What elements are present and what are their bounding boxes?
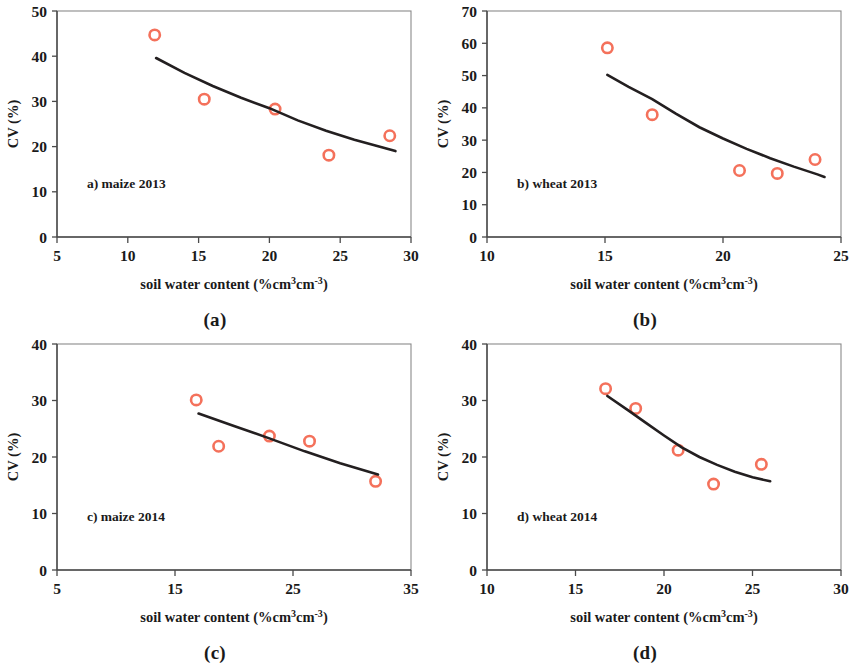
x-axis-title: soil water content (%cm3cm-3) bbox=[570, 608, 758, 627]
data-point-marker bbox=[647, 109, 657, 119]
y-tick-label: 0 bbox=[39, 229, 47, 246]
panel-c: 0102030405152535CV (%)soil water content… bbox=[0, 333, 430, 666]
panel-c-caption: (c) bbox=[0, 642, 430, 664]
data-point-marker bbox=[370, 476, 380, 486]
plot-frame bbox=[57, 344, 411, 570]
y-tick-label: 40 bbox=[32, 48, 48, 65]
y-tick-label: 10 bbox=[32, 505, 48, 522]
x-tick-label: 25 bbox=[332, 247, 348, 264]
panel-tag-label: d) wheat 2014 bbox=[517, 509, 597, 524]
x-tick-label: 15 bbox=[597, 247, 613, 264]
x-axis-title: soil water content (%cm3cm-3) bbox=[140, 275, 328, 294]
x-tick-label: 15 bbox=[568, 580, 584, 597]
panel-c-plot: 0102030405152535CV (%)soil water content… bbox=[0, 333, 430, 633]
x-axis-title: soil water content (%cm3cm-3) bbox=[570, 275, 758, 294]
figure-container: 0102030405051015202530CV (%)soil water c… bbox=[0, 0, 859, 666]
y-axis-title: CV (%) bbox=[435, 433, 452, 482]
panel-a: 0102030405051015202530CV (%)soil water c… bbox=[0, 0, 430, 333]
y-axis-title: CV (%) bbox=[435, 100, 452, 149]
x-tick-label: 15 bbox=[167, 580, 183, 597]
data-point-marker bbox=[150, 30, 160, 40]
y-tick-label: 30 bbox=[32, 392, 48, 409]
panel-a-plot: 0102030405051015202530CV (%)soil water c… bbox=[0, 0, 430, 300]
panel-tag-label: c) maize 2014 bbox=[87, 509, 165, 524]
data-point-marker bbox=[304, 436, 314, 446]
x-tick-label: 35 bbox=[403, 580, 419, 597]
y-tick-label: 0 bbox=[39, 562, 47, 579]
y-tick-label: 10 bbox=[462, 196, 478, 213]
x-tick-label: 30 bbox=[403, 247, 419, 264]
y-tick-label: 10 bbox=[32, 183, 48, 200]
y-tick-label: 60 bbox=[462, 35, 478, 52]
panel-tag-label: a) maize 2013 bbox=[87, 176, 166, 191]
x-axis-title: soil water content (%cm3cm-3) bbox=[140, 608, 328, 627]
plot-frame bbox=[487, 344, 841, 570]
x-tick-label: 25 bbox=[745, 580, 761, 597]
x-tick-label: 10 bbox=[479, 247, 495, 264]
y-axis-title: CV (%) bbox=[5, 433, 22, 482]
y-tick-label: 50 bbox=[462, 67, 478, 84]
panel-b-caption: (b) bbox=[430, 309, 859, 331]
data-point-marker bbox=[756, 459, 766, 469]
data-point-marker bbox=[602, 43, 612, 53]
y-tick-label: 0 bbox=[469, 229, 477, 246]
plot-frame bbox=[487, 11, 841, 237]
panel-b-plot: 01020304050607010152025CV (%)soil water … bbox=[430, 0, 859, 300]
y-tick-label: 0 bbox=[469, 562, 477, 579]
x-tick-label: 25 bbox=[285, 580, 301, 597]
x-tick-label: 25 bbox=[833, 247, 849, 264]
y-tick-label: 30 bbox=[32, 93, 48, 110]
x-tick-label: 30 bbox=[833, 580, 849, 597]
data-point-marker bbox=[324, 150, 334, 160]
y-tick-label: 20 bbox=[32, 449, 48, 466]
panel-d: 0102030401015202530CV (%)soil water cont… bbox=[430, 333, 859, 666]
panel-d-plot: 0102030401015202530CV (%)soil water cont… bbox=[430, 333, 859, 633]
fitted-curve bbox=[607, 75, 824, 177]
data-point-marker bbox=[385, 131, 395, 141]
panel-a-caption: (a) bbox=[0, 309, 430, 331]
y-tick-label: 70 bbox=[462, 3, 478, 20]
y-tick-label: 40 bbox=[32, 336, 48, 353]
y-tick-label: 50 bbox=[32, 3, 48, 20]
y-tick-label: 20 bbox=[32, 138, 48, 155]
y-tick-label: 20 bbox=[462, 449, 478, 466]
data-point-marker bbox=[734, 165, 744, 175]
plot-frame bbox=[57, 11, 411, 237]
y-tick-label: 40 bbox=[462, 336, 478, 353]
x-tick-label: 10 bbox=[479, 580, 495, 597]
data-point-marker bbox=[772, 168, 782, 178]
x-tick-label: 5 bbox=[53, 580, 61, 597]
y-tick-label: 40 bbox=[462, 99, 478, 116]
x-tick-label: 20 bbox=[262, 247, 278, 264]
y-axis-title: CV (%) bbox=[5, 100, 22, 149]
panel-tag-label: b) wheat 2013 bbox=[517, 176, 597, 191]
y-tick-label: 10 bbox=[462, 505, 478, 522]
x-tick-label: 20 bbox=[715, 247, 731, 264]
data-point-marker bbox=[213, 441, 223, 451]
data-point-marker bbox=[708, 479, 718, 489]
x-tick-label: 15 bbox=[191, 247, 207, 264]
data-point-marker bbox=[191, 395, 201, 405]
x-tick-label: 20 bbox=[656, 580, 672, 597]
data-point-marker bbox=[199, 94, 209, 104]
y-tick-label: 30 bbox=[462, 392, 478, 409]
y-tick-label: 20 bbox=[462, 164, 478, 181]
x-tick-label: 5 bbox=[53, 247, 61, 264]
data-point-marker bbox=[600, 383, 610, 393]
panel-d-caption: (d) bbox=[430, 642, 859, 664]
y-tick-label: 30 bbox=[462, 132, 478, 149]
panel-b: 01020304050607010152025CV (%)soil water … bbox=[430, 0, 859, 333]
fitted-curve bbox=[199, 413, 378, 474]
x-tick-label: 10 bbox=[120, 247, 136, 264]
data-point-marker bbox=[810, 154, 820, 164]
